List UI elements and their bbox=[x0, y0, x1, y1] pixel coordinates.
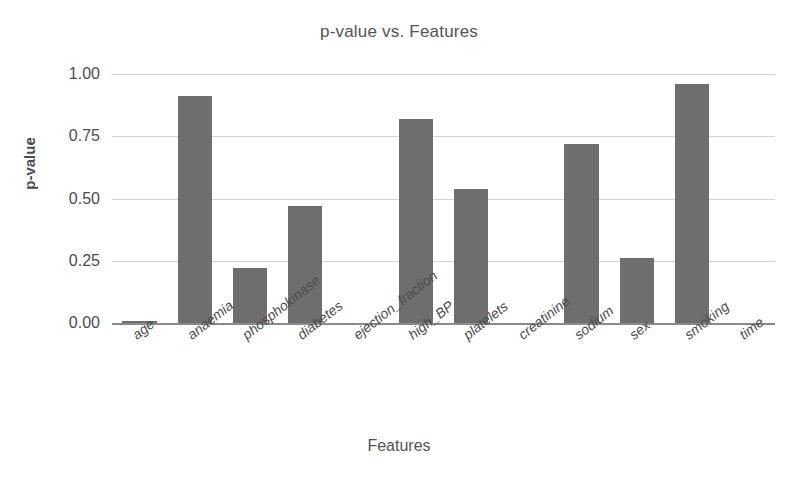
plot-area bbox=[112, 74, 775, 323]
chart-title: p-value vs. Features bbox=[0, 22, 798, 42]
y-axis-title: p-value bbox=[21, 104, 38, 224]
bar-platelets bbox=[454, 189, 488, 323]
chart-figure: p-value vs. Features p-value 0.000.250.5… bbox=[0, 0, 798, 489]
y-tick-label: 0.75 bbox=[69, 127, 100, 145]
bar-anaemia bbox=[178, 96, 212, 323]
bar-sodium bbox=[564, 144, 598, 323]
y-tick-label: 0.25 bbox=[69, 252, 100, 270]
y-tick-label: 0.50 bbox=[69, 190, 100, 208]
y-tick-label: 1.00 bbox=[69, 65, 100, 83]
y-tick-label: 0.00 bbox=[69, 314, 100, 332]
bar-smoking bbox=[675, 84, 709, 323]
bar-sex bbox=[620, 258, 654, 323]
gridline bbox=[112, 74, 775, 75]
x-axis-ticks: ageanaemiaphosphokinasediabetesejection_… bbox=[112, 330, 775, 430]
x-axis-title: Features bbox=[0, 437, 798, 455]
